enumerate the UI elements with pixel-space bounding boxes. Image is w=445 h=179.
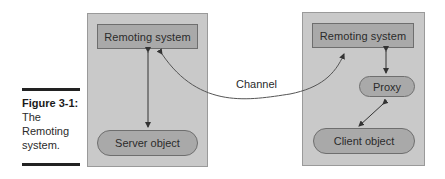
caption-title: Figure 3-1:: [22, 97, 80, 110]
channel-label: Channel: [236, 78, 277, 90]
client-remoting-system-box: Remoting system: [312, 23, 414, 48]
server-object-pill: Server object: [97, 130, 198, 156]
proxy-pill: Proxy: [359, 76, 415, 97]
client-remoting-system-label: Remoting system: [320, 30, 406, 42]
caption-bottom-rule: [22, 163, 80, 166]
server-remoting-system-label: Remoting system: [104, 31, 190, 43]
client-object-label: Client object: [334, 135, 395, 147]
caption-text: The Remoting system.: [22, 110, 80, 152]
caption-top-rule: [22, 88, 80, 91]
figure-caption: Figure 3-1: The Remoting system.: [22, 88, 80, 152]
server-object-label: Server object: [115, 137, 180, 149]
client-object-pill: Client object: [313, 128, 415, 154]
server-remoting-system-box: Remoting system: [97, 24, 198, 49]
proxy-label: Proxy: [373, 81, 401, 93]
